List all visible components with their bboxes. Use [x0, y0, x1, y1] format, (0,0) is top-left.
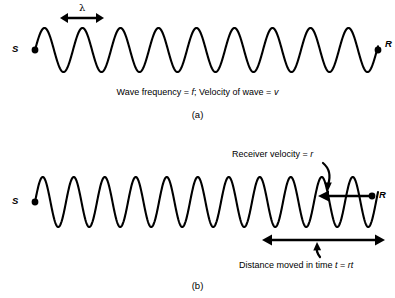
source-label-a: S: [12, 44, 18, 54]
receiver-label-b: R: [379, 190, 386, 200]
panel-b-label: (b): [0, 281, 395, 291]
wavelength-symbol-label: λ: [79, 3, 85, 13]
distance-arrow: [262, 235, 385, 246]
caption-a-text1: Wave frequency =: [117, 87, 192, 97]
panel-a-group: [32, 13, 382, 72]
panel-a-caption: Wave frequency = f; Velocity of wave = v: [0, 88, 395, 97]
distance-pointer: [313, 242, 321, 257]
source-label-b: S: [12, 196, 18, 206]
distance-var-rt: rt: [348, 260, 354, 270]
caption-a-text2: ; Velocity of wave =: [194, 87, 274, 97]
receiver-velocity-var: r: [310, 149, 313, 159]
distance-text-1: Distance moved in time: [239, 260, 335, 270]
wave-doppler-figure: λ S R Wave frequency = f; Velocity of wa…: [0, 0, 395, 298]
receiver-velocity-annotation: Receiver velocity = r: [232, 150, 313, 159]
receiver-velocity-text: Receiver velocity =: [232, 149, 310, 159]
wave-curve-a: [35, 28, 378, 72]
source-dot-a: [32, 47, 39, 54]
distance-text-2: =: [338, 260, 348, 270]
distance-annotation: Distance moved in time t = rt: [239, 261, 353, 270]
figure-canvas: [0, 0, 395, 298]
source-dot-b: [32, 199, 39, 206]
wavelength-arrow: [60, 13, 104, 23]
receiver-label-a: R: [385, 39, 392, 49]
receiver-velocity-pointer: [323, 163, 332, 191]
panel-a-label: (a): [0, 110, 395, 120]
panel-b-group: [32, 163, 385, 257]
caption-a-var-v: v: [274, 87, 279, 97]
receiver-dot-a: [375, 47, 382, 54]
